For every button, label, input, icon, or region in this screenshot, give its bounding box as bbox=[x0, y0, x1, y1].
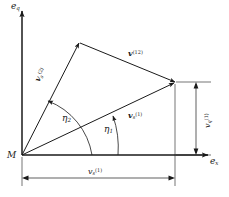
angle-arc-eta1 bbox=[113, 116, 118, 155]
vector-v-s-1 bbox=[22, 83, 174, 155]
vector-label-v-12: v(12) bbox=[128, 49, 143, 58]
angle-label-eta1: η1 bbox=[104, 125, 113, 135]
axis-label-e-x: ex bbox=[210, 157, 218, 167]
dimension-label-horizontal: vs(1) bbox=[88, 168, 102, 176]
diagram-canvas bbox=[0, 0, 229, 197]
axis-label-e-q: eq bbox=[11, 2, 20, 12]
vector-v-s-2 bbox=[22, 43, 79, 155]
dimension-line-vertical bbox=[194, 82, 199, 155]
vector-diagram-figure: eq ex M v(12) vs(1) vs(2) η1 η2 vs(1) vq… bbox=[0, 0, 229, 197]
dimension-label-vertical: vq(1) bbox=[204, 113, 212, 128]
angle-label-eta2: η2 bbox=[62, 114, 71, 124]
origin-label-M: M bbox=[7, 151, 16, 160]
angle-arc-eta2 bbox=[48, 101, 92, 155]
vector-label-v-s-1: vs(1) bbox=[128, 111, 142, 120]
